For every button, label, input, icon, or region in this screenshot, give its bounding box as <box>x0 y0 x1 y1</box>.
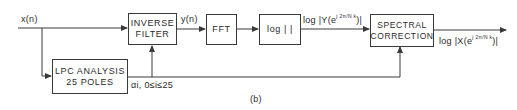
log-magnitude-block: log | | <box>259 14 301 45</box>
coefficients-label: αi, 0≤i≤25 <box>131 80 173 90</box>
y-exponent: j 2π/N k <box>336 13 356 19</box>
inverse-filter-line1: INVERSE <box>131 18 175 29</box>
fft-label: FFT <box>212 24 230 35</box>
log-magnitude-label: log | | <box>267 24 293 35</box>
lpc-analysis-block: LPC ANALYSIS 25 POLES <box>52 59 128 94</box>
y-body: |Y(e <box>319 15 337 25</box>
x-body: |X(e <box>455 36 473 46</box>
log-prefix: log <box>303 15 316 25</box>
lpc-analysis-line1: LPC ANALYSIS <box>55 66 125 77</box>
spectral-correction-line2: CORRECTION <box>370 31 433 42</box>
input-signal-label: x(n) <box>21 14 38 24</box>
x-suffix: )| <box>492 36 498 46</box>
filtered-signal-label: y(n) <box>181 14 198 24</box>
fft-block: FFT <box>206 14 237 45</box>
figure-caption: (b) <box>250 94 262 104</box>
inverse-filter-block: INVERSE FILTER <box>128 13 177 45</box>
inverse-filter-line2: FILTER <box>136 29 170 40</box>
output-signal-label: log |X(ej 2π/N k)| <box>439 34 498 46</box>
spectral-correction-line1: SPECTRAL <box>377 20 427 31</box>
y-suffix: )| <box>356 15 362 25</box>
log-prefix: log <box>439 36 452 46</box>
log-spectrum-y-label: log |Y(ej 2π/N k)| <box>303 13 362 25</box>
spectral-correction-block: SPECTRAL CORRECTION <box>370 14 434 47</box>
x-exponent: j 2π/N k <box>472 34 492 40</box>
lpc-analysis-line2: 25 POLES <box>66 77 113 88</box>
